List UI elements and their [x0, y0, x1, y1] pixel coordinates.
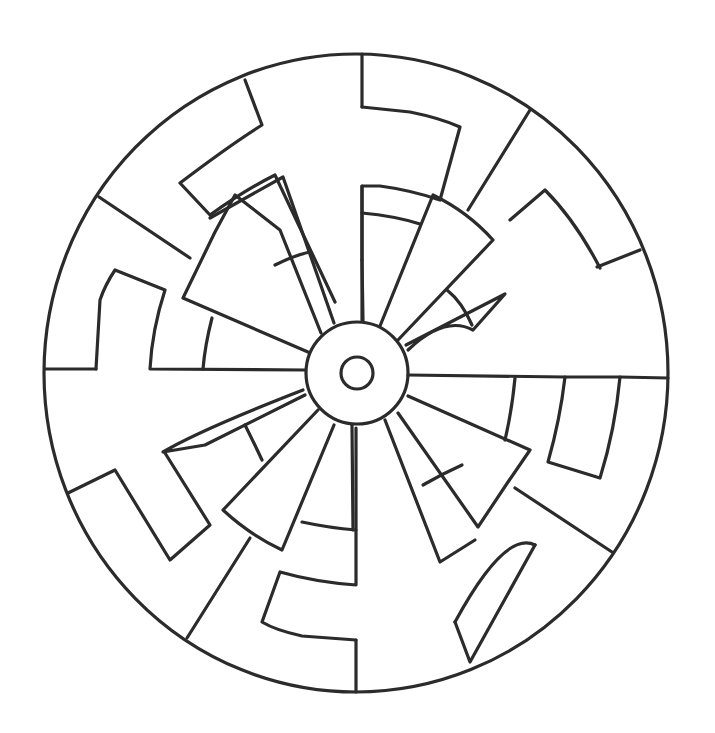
hub-circle	[306, 322, 408, 424]
mandala-drawing	[0, 0, 715, 733]
center-ring	[341, 357, 373, 389]
mandala-canvas	[0, 0, 715, 733]
outer-dividers	[45, 54, 668, 692]
hook-shapes	[68, 80, 640, 662]
outer-circle	[44, 54, 668, 692]
